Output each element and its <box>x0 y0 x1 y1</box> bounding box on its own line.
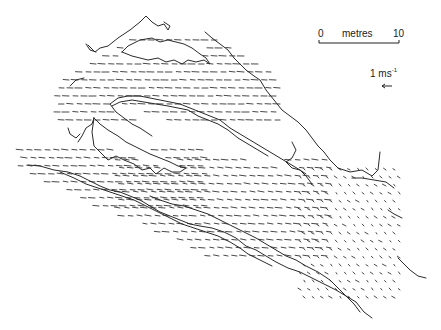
scale-start-label: 0 <box>318 29 324 39</box>
velocity-arrow-icon <box>376 233 377 234</box>
velocity-arrow-icon <box>206 159 210 160</box>
velocity-arrow-icon <box>347 280 350 282</box>
velocity-arrow-icon <box>305 207 309 208</box>
velocity-arrow-icon <box>322 232 324 234</box>
velocity-arrow-icon <box>83 173 90 174</box>
velocity-arrow-icon <box>123 175 129 176</box>
velocity-arrow-icon <box>186 192 192 193</box>
velocity-arrow-icon <box>90 64 96 65</box>
velocity-arrow-icon <box>21 157 27 158</box>
velocity-arrow-icon <box>361 240 364 242</box>
velocity-arrow-icon <box>280 183 286 184</box>
velocity-arrow-icon <box>366 168 368 170</box>
velocity-arrow-icon <box>385 232 387 234</box>
velocity-arrow-icon <box>133 191 138 192</box>
velocity-arrow-icon <box>302 232 305 234</box>
velocity-arrow-icon <box>160 175 165 176</box>
velocity-arrow-icon <box>263 231 268 232</box>
velocity-arrow-icon <box>121 72 127 73</box>
velocity-arrow-icon <box>169 223 174 224</box>
velocity-arrow-icon <box>311 264 314 266</box>
velocity-arrow-icon <box>312 217 314 218</box>
velocity-arrow-icon <box>138 205 144 206</box>
velocity-arrow-icon <box>287 191 292 192</box>
velocity-arrow-icon <box>308 256 310 258</box>
velocity-arrow-icon <box>322 239 327 240</box>
velocity-arrow-icon <box>57 158 63 159</box>
velocity-arrow-icon <box>141 191 147 192</box>
velocity-arrow-icon <box>180 181 185 182</box>
velocity-key-arrow-icon <box>380 83 394 89</box>
velocity-arrow-icon <box>223 191 228 192</box>
velocity-arrow-icon <box>321 265 323 266</box>
velocity-arrow-icon <box>261 199 268 200</box>
velocity-arrow-icon <box>372 288 373 290</box>
velocity-arrow-icon <box>325 272 328 274</box>
velocity-arrow-icon <box>178 192 183 193</box>
velocity-arrow-icon <box>304 169 305 170</box>
velocity-arrow-icon <box>266 88 271 89</box>
velocity-arrow-icon <box>63 181 68 182</box>
velocity-arrow-icon <box>356 200 360 202</box>
velocity-arrow-icon <box>312 248 314 250</box>
velocity-arrow-icon <box>31 157 36 158</box>
velocity-arrow-icon <box>187 159 192 160</box>
velocity-arrow-icon <box>313 176 318 177</box>
velocity-arrow-icon <box>244 167 250 168</box>
velocity-arrow-icon <box>108 166 113 167</box>
velocity-arrow-icon <box>317 215 322 216</box>
velocity-arrow-icon <box>191 190 198 191</box>
velocity-vectors <box>16 39 400 298</box>
velocity-arrow-icon <box>205 191 210 192</box>
velocity-arrow-icon <box>308 176 310 178</box>
velocity-arrow-icon <box>112 189 117 190</box>
velocity-arrow-icon <box>389 177 391 179</box>
velocity-arrow-icon <box>339 232 341 234</box>
velocity-arrow-icon <box>345 192 347 194</box>
velocity-arrow-icon <box>174 173 180 174</box>
velocity-arrow-icon <box>73 112 78 113</box>
velocity-arrow-icon <box>398 289 400 290</box>
velocity-arrow-icon <box>363 257 364 258</box>
velocity-arrow-icon <box>120 167 125 168</box>
velocity-arrow-icon <box>120 189 126 190</box>
velocity-arrow-icon <box>95 157 100 158</box>
velocity-arrow-icon <box>312 159 318 160</box>
velocity-arrow-icon <box>276 191 282 192</box>
velocity-arrow-icon <box>157 88 163 89</box>
velocity-arrow-icon <box>138 104 145 105</box>
velocity-arrow-icon <box>258 255 264 256</box>
velocity-arrow-icon <box>189 215 196 216</box>
velocity-arrow-icon <box>274 88 280 89</box>
velocity-arrow-icon <box>214 223 219 224</box>
velocity-arrow-icon <box>357 264 359 266</box>
velocity-arrow-icon <box>312 280 314 282</box>
velocity-arrow-icon <box>76 157 81 158</box>
velocity-arrow-icon <box>361 208 364 210</box>
velocity-arrow-icon <box>286 223 291 224</box>
velocity-arrow-icon <box>302 191 309 192</box>
velocity-arrow-icon <box>204 207 210 208</box>
velocity-arrow-icon <box>313 207 319 208</box>
velocity-arrow-icon <box>345 241 347 242</box>
velocity-arrow-icon <box>54 149 59 150</box>
velocity-arrow-icon <box>344 208 347 210</box>
velocity-arrow-icon <box>202 205 208 206</box>
velocity-arrow-icon <box>151 150 158 151</box>
velocity-arrow-icon <box>195 239 201 240</box>
velocity-arrow-icon <box>16 149 23 150</box>
velocity-arrow-icon <box>374 264 377 266</box>
velocity-arrow-icon <box>189 198 194 199</box>
velocity-arrow-icon <box>151 223 156 224</box>
velocity-arrow-icon <box>127 167 133 168</box>
velocity-arrow-icon <box>224 175 228 176</box>
velocity-arrow-icon <box>72 149 77 150</box>
velocity-arrow-icon <box>357 233 359 235</box>
velocity-arrow-icon <box>232 160 237 161</box>
velocity-arrow-icon <box>281 247 286 248</box>
velocity-arrow-icon <box>304 200 305 202</box>
velocity-arrow-icon <box>375 200 377 202</box>
velocity-arrow-icon <box>197 198 203 199</box>
velocity-arrow-icon <box>253 112 258 113</box>
velocity-arrow-icon <box>329 216 332 218</box>
